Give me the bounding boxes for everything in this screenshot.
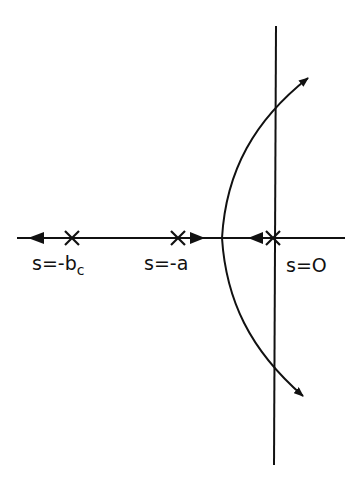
label-pole-origin: s=O <box>286 254 327 276</box>
arrow-right-icon <box>190 232 205 244</box>
label-pole-a: s=-a <box>144 252 188 274</box>
locus-branch-upper <box>222 78 308 238</box>
arrow-left-icon <box>28 232 44 244</box>
root-locus-diagram: s=-bc s=-a s=O <box>0 0 360 488</box>
imaginary-axis <box>274 26 276 465</box>
arrow-left-icon <box>248 232 263 244</box>
label-pole-bc: s=-bc <box>32 252 84 278</box>
